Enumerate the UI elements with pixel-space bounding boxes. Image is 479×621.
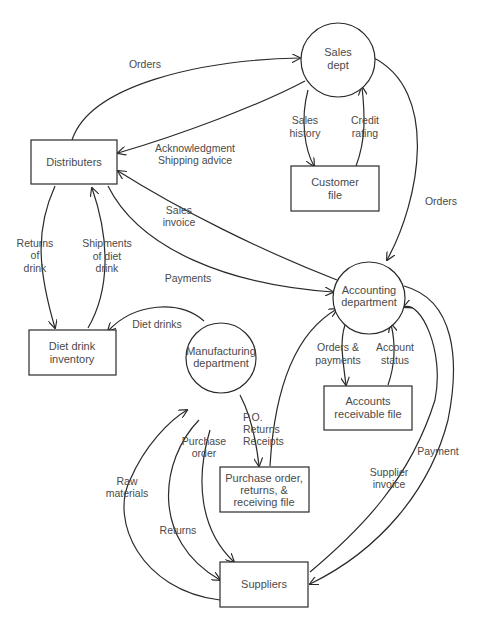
node-label: Suppliers <box>241 578 287 590</box>
flow-label-sales-invoice: Salesinvoice <box>163 204 196 228</box>
flow-label-shipments: Shipmentsof dietdrink <box>82 237 132 274</box>
flows <box>41 57 453 600</box>
process-manufacturing-department[interactable]: Manufacturingdepartment <box>186 323 256 393</box>
entity-distributers-label: Distributers <box>46 156 102 168</box>
node-label: department <box>193 357 249 369</box>
node-label: Accounts <box>345 395 391 407</box>
flow-orders-dist-to-sales <box>72 58 300 140</box>
data-flow-diagram: Salesdept Distributers Customerfile Acco… <box>0 0 479 621</box>
store-purchase-order-file[interactable]: Purchase order,returns, &receiving file <box>220 467 309 512</box>
flow-label-raw-materials: Rawmaterials <box>106 475 149 499</box>
node-label: Purchase order, <box>225 472 303 484</box>
flow-label-purchase-order: Purchaseorder <box>182 435 227 459</box>
store-accounts-receivable-file[interactable]: Accountsreceivable file <box>324 386 412 430</box>
flow-label-sales-history: Saleshistory <box>290 114 322 139</box>
flow-label-returns: Returns <box>160 524 197 536</box>
process-accounting-department[interactable]: Accountingdepartment <box>333 262 405 334</box>
entity-suppliers[interactable]: Suppliers <box>220 562 308 607</box>
flow-orders-sales-to-acct <box>372 57 417 260</box>
store-diet-drink-inventory[interactable]: Diet drinkinventory <box>29 330 116 375</box>
flow-label-payments: Payments <box>165 272 212 284</box>
node-label: Diet drink <box>49 340 96 352</box>
node-label: receiving file <box>233 496 294 508</box>
flow-label-diet-drinks: Diet drinks <box>132 318 182 330</box>
flow-label-payment: Payment <box>417 445 459 457</box>
flow-label-orders-acct: Orders <box>425 195 457 207</box>
flow-label-po-returns-receipts: P.O.ReturnsReceipts <box>243 411 284 447</box>
svg-text:Manufacturingdepartment: Manufacturingdepartment <box>186 345 256 369</box>
flow-label-account-status: Accountstatus <box>376 341 414 366</box>
flow-label-ack: AcknowledgmentShipping advice <box>155 142 235 166</box>
flow-label-supplier-invoice: Supplierinvoice <box>370 466 409 490</box>
node-label: department <box>341 296 397 308</box>
svg-text:Accountingdepartment: Accountingdepartment <box>341 284 397 308</box>
flow-label-orders-payments: Orders &payments <box>315 341 361 366</box>
node-label: dept <box>327 59 348 71</box>
node-label: Customer <box>311 176 359 188</box>
svg-text:Diet drinkinventory: Diet drinkinventory <box>49 340 96 365</box>
node-label: inventory <box>50 353 95 365</box>
flow-label-orders: Orders <box>129 58 161 70</box>
flow-label-returns-of-drink: Returnsofdrink <box>17 237 54 274</box>
node-label: Accounting <box>342 284 396 296</box>
node-label: Sales <box>324 46 352 58</box>
store-customer-file[interactable]: Customerfile <box>291 166 379 211</box>
svg-text:Salesdept: Salesdept <box>324 46 352 71</box>
process-sales-dept[interactable]: Salesdept <box>301 23 375 97</box>
node-label: Manufacturing <box>186 345 256 357</box>
node-label: returns, & <box>240 484 288 496</box>
node-label: file <box>328 189 342 201</box>
flow-label-credit-rating: Creditrating <box>351 114 379 139</box>
flow-returns-of-drink <box>41 186 55 328</box>
node-label: receivable file <box>334 408 401 420</box>
